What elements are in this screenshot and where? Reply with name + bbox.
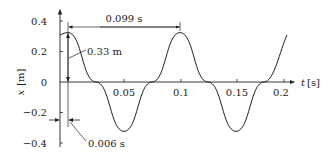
period-label: 0.099 s bbox=[106, 13, 143, 24]
x-axis-title: t[s] bbox=[301, 77, 320, 88]
svg-text:x[m]: x[m] bbox=[15, 68, 26, 95]
y-axis-title: x[m] bbox=[15, 68, 26, 95]
offset-leader bbox=[70, 122, 86, 141]
y-tick-label: 0.4 bbox=[31, 16, 47, 27]
y-tick-label: −0.4 bbox=[23, 138, 47, 149]
oscillation-chart: 0.4 0.2 0 −0.2 −0.4 0.05 0.1 0.15 0.2 x[… bbox=[0, 0, 332, 161]
y-tick-label: 0 bbox=[41, 77, 47, 88]
offset-label: 0.006 s bbox=[88, 138, 125, 149]
amplitude-label: 0.33 m bbox=[87, 46, 122, 57]
y-tick-label: −0.2 bbox=[23, 107, 47, 118]
x-tick-label: 0.15 bbox=[226, 87, 248, 98]
x-tick-label: 0.05 bbox=[113, 87, 135, 98]
y-tick-label: 0.2 bbox=[31, 46, 47, 57]
x-tick-label: 0.1 bbox=[173, 87, 189, 98]
x-tick-label: 0.2 bbox=[273, 87, 289, 98]
amplitude-leader bbox=[69, 50, 86, 58]
